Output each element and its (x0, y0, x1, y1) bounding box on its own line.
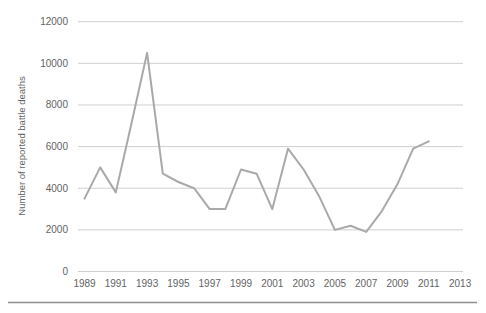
x-tick-label-1999: 1999 (230, 278, 253, 289)
y-tick-label-10000: 10000 (40, 58, 68, 69)
y-tick-label-12000: 12000 (40, 16, 68, 27)
x-tick-label-2003: 2003 (292, 278, 315, 289)
x-tick-label-2013: 2013 (449, 278, 472, 289)
x-tick-label-2011: 2011 (418, 278, 440, 289)
y-tick-label-4000: 4000 (46, 183, 69, 194)
y-tick-label-0: 0 (62, 266, 68, 277)
x-tick-label-2005: 2005 (324, 278, 347, 289)
x-tick-label-2001: 2001 (261, 278, 284, 289)
y-axis-title: Number of reported battle deaths (16, 76, 27, 216)
x-tick-label-2009: 2009 (386, 278, 409, 289)
y-tick-label-2000: 2000 (46, 224, 69, 235)
x-tick-label-1995: 1995 (167, 278, 190, 289)
x-tick-labels: 1989199119931995199719992001200320052007… (73, 278, 471, 289)
x-tick-label-1991: 1991 (105, 278, 128, 289)
gridlines (78, 22, 463, 272)
y-tick-label-6000: 6000 (46, 141, 69, 152)
x-tick-label-2007: 2007 (355, 278, 378, 289)
data-line (85, 53, 429, 232)
y-tick-label-8000: 8000 (46, 99, 69, 110)
chart-svg: 020004000600080001000012000 198919911993… (0, 0, 486, 313)
chart-figure: 020004000600080001000012000 198919911993… (0, 0, 486, 313)
y-tick-labels: 020004000600080001000012000 (40, 16, 68, 277)
x-tick-label-1997: 1997 (199, 278, 222, 289)
x-tick-label-1989: 1989 (73, 278, 96, 289)
x-tick-label-1993: 1993 (136, 278, 159, 289)
